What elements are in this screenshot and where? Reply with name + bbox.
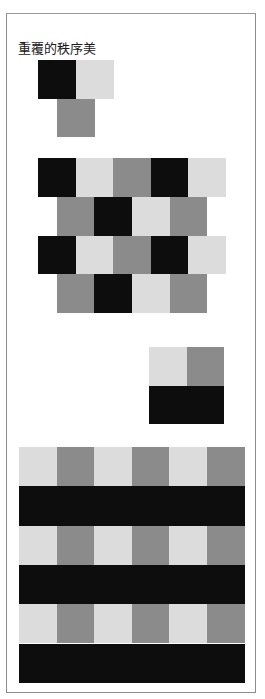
light-square (169, 526, 207, 565)
black-square (94, 197, 132, 236)
black-square (38, 60, 76, 99)
black-square (38, 236, 76, 275)
gray-square (57, 526, 95, 565)
black-square (169, 565, 207, 604)
black-square (94, 486, 132, 525)
light-square (149, 347, 187, 386)
black-square (19, 486, 57, 525)
black-square (151, 236, 189, 275)
gray-square (132, 447, 170, 486)
light-square (188, 158, 226, 197)
light-square (76, 60, 114, 99)
black-square (207, 486, 245, 525)
black-square (38, 158, 76, 197)
black-square (19, 565, 57, 604)
black-square (149, 386, 187, 425)
gray-square (113, 236, 151, 275)
gray-square (132, 526, 170, 565)
black-square (151, 158, 189, 197)
black-square (57, 644, 95, 683)
page-title: 重覆的秩序美 (18, 41, 96, 57)
gray-square (187, 347, 225, 386)
light-square (19, 447, 57, 486)
light-square (132, 274, 170, 313)
black-square (132, 644, 170, 683)
black-square (57, 486, 95, 525)
black-square (132, 565, 170, 604)
black-square (169, 644, 207, 683)
gray-square (207, 447, 245, 486)
light-square (76, 236, 114, 275)
light-square (94, 447, 132, 486)
black-square (169, 486, 207, 525)
black-square (132, 486, 170, 525)
gray-square (57, 99, 95, 138)
light-square (94, 526, 132, 565)
gray-square (57, 604, 95, 643)
gray-square (170, 274, 208, 313)
light-square (188, 236, 226, 275)
gray-square (207, 526, 245, 565)
gray-square (57, 197, 95, 236)
gray-square (113, 158, 151, 197)
light-square (169, 604, 207, 643)
light-square (19, 526, 57, 565)
black-square (57, 565, 95, 604)
light-square (132, 197, 170, 236)
gray-square (207, 604, 245, 643)
light-square (94, 604, 132, 643)
black-square (187, 386, 225, 425)
gray-square (170, 197, 208, 236)
light-square (169, 447, 207, 486)
light-square (19, 604, 57, 643)
black-square (94, 565, 132, 604)
gray-square (132, 604, 170, 643)
gray-square (57, 447, 95, 486)
light-square (76, 158, 114, 197)
black-square (207, 565, 245, 604)
black-square (94, 274, 132, 313)
black-square (94, 644, 132, 683)
black-square (207, 644, 245, 683)
black-square (19, 644, 57, 683)
gray-square (57, 274, 95, 313)
